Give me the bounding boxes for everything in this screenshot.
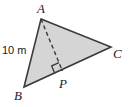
triangle-abc <box>24 19 111 87</box>
side-measure-label-ab: 10 m <box>2 45 26 56</box>
point-label-p: P <box>59 77 67 90</box>
vertex-label-a: A <box>37 2 45 15</box>
point-p-dot <box>61 69 63 71</box>
vertex-label-c: C <box>113 47 122 60</box>
vertex-label-b: B <box>14 89 22 102</box>
geometry-figure: A B C P 10 m <box>0 0 137 107</box>
